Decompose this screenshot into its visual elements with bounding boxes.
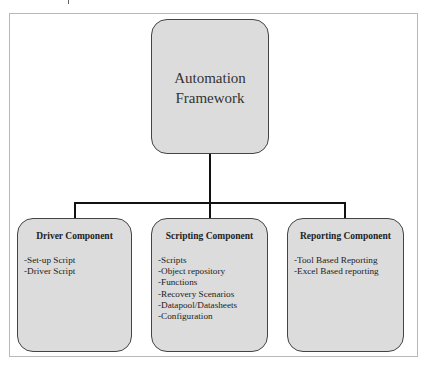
list-item: -Excel Based reporting: [294, 266, 379, 277]
root-title-line-2: Framework: [152, 88, 268, 108]
list-item: -Object repository: [158, 266, 237, 277]
root-node-title: Automation Framework: [152, 68, 268, 108]
node-title: Scripting Component: [152, 231, 267, 241]
node-item-list: -Tool Based Reporting -Excel Based repor…: [294, 255, 379, 277]
node-title: Driver Component: [18, 231, 131, 241]
list-item: -Configuration: [158, 311, 237, 322]
node-reporting-component: Reporting Component -Tool Based Reportin…: [287, 218, 404, 352]
top-crop-mark: [68, 0, 69, 4]
node-item-list: -Scripts -Object repository -Functions -…: [158, 255, 237, 322]
connector-root-vertical: [209, 154, 211, 204]
root-node-automation-framework: Automation Framework: [151, 19, 269, 154]
list-item: -Functions: [158, 277, 237, 288]
list-item: -Datapool/Datasheets: [158, 300, 237, 311]
root-title-line-1: Automation: [152, 68, 268, 88]
list-item: -Set-up Script: [24, 255, 75, 266]
connector-scripting: [209, 202, 211, 218]
node-driver-component: Driver Component -Set-up Script -Driver …: [17, 218, 132, 352]
connector-reporting: [344, 202, 346, 218]
list-item: -Tool Based Reporting: [294, 255, 379, 266]
node-item-list: -Set-up Script -Driver Script: [24, 255, 75, 277]
list-item: -Recovery Scenarios: [158, 289, 237, 300]
list-item: -Driver Script: [24, 266, 75, 277]
connector-driver: [74, 202, 76, 218]
node-scripting-component: Scripting Component -Scripts -Object rep…: [151, 218, 268, 352]
list-item: -Scripts: [158, 255, 237, 266]
node-title: Reporting Component: [288, 231, 403, 241]
